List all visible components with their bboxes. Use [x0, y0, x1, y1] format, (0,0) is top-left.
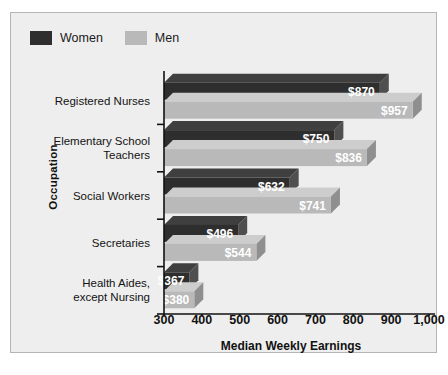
x-axis-tick-label: 300 — [154, 313, 175, 327]
x-axis-title: Median Weekly Earnings — [131, 339, 448, 353]
chart-legend: Women Men — [30, 31, 179, 45]
bar-value-label-men: $380 — [163, 293, 190, 307]
y-axis-category-label: Secretaries — [51, 236, 150, 250]
men-swatch-icon — [125, 31, 147, 45]
y-axis-category-line: Social Workers — [51, 188, 150, 202]
chart-figure: Women Men Occupation Registered NursesEl… — [0, 0, 448, 375]
bar-value-label-men: $544 — [225, 246, 252, 260]
x-axis-tick-label: 700 — [305, 313, 326, 327]
y-axis-category-line: Registered Nurses — [51, 94, 150, 108]
x-axis-tick-labels: 3004005006007008009001,000 — [154, 313, 439, 331]
x-axis-tick-label: 800 — [343, 313, 364, 327]
bar-value-label-women: $632 — [258, 180, 285, 194]
y-axis-category-label: Registered Nurses — [51, 94, 150, 108]
bar-value-label-men: $741 — [299, 199, 326, 213]
chart-panel: Women Men Occupation Registered NursesEl… — [10, 12, 437, 353]
x-axis-tick-label: 900 — [381, 313, 402, 327]
bar-value-label-men: $957 — [381, 104, 408, 118]
y-axis-category-line: except Nursing — [51, 290, 150, 304]
x-axis-tick-label: 500 — [229, 313, 250, 327]
y-axis-category-label: Social Workers — [51, 188, 150, 202]
x-axis-tick-label: 600 — [267, 313, 288, 327]
bar-value-label-women: $750 — [303, 132, 330, 146]
y-axis-category-line: Secretaries — [51, 236, 150, 250]
bar-value-label-women: $367 — [158, 274, 185, 288]
legend-label-men: Men — [155, 31, 179, 45]
x-axis-tick-label: 400 — [191, 313, 212, 327]
bar-value-label-women: $870 — [348, 85, 375, 99]
y-axis-category-line: Health Aides, — [51, 276, 150, 290]
plot-area: $870$957$750$836$632$741$496$544$367$380 — [154, 71, 439, 316]
y-axis-category-line: Teachers — [51, 148, 150, 162]
legend-label-women: Women — [60, 31, 103, 45]
y-axis-category-label: Health Aides,except Nursing — [51, 276, 150, 304]
legend-entry-men: Men — [125, 31, 179, 45]
x-axis-tick-label: 1,000 — [413, 313, 444, 327]
legend-entry-women: Women — [30, 31, 103, 45]
y-axis-category-label: Elementary SchoolTeachers — [51, 134, 150, 162]
y-axis-category-line: Elementary School — [51, 134, 150, 148]
bars-svg: $870$957$750$836$632$741$496$544$367$380 — [154, 71, 439, 316]
women-swatch-icon — [30, 31, 52, 45]
bar-value-label-men: $836 — [335, 151, 362, 165]
y-axis-tick-labels: Registered NursesElementary SchoolTeache… — [51, 71, 150, 316]
bar-value-label-women: $496 — [206, 227, 233, 241]
